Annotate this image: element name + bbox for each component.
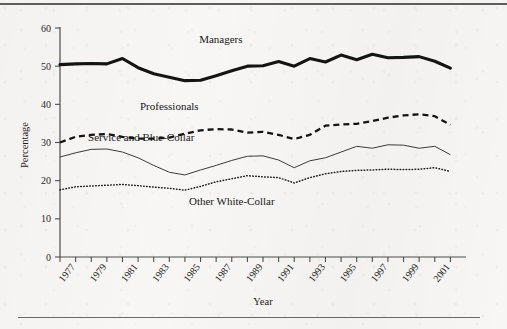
x-tick-label: 1977 <box>56 261 77 284</box>
y-tick-label: 30 <box>41 137 51 148</box>
series-line-service-and-blue-collar <box>60 145 450 175</box>
x-tick-label: 1993 <box>306 261 327 284</box>
data-series <box>60 54 450 190</box>
y-tick-label: 20 <box>41 175 51 186</box>
x-tick-label: 1979 <box>87 261 108 284</box>
x-tick-label: 1999 <box>400 261 421 284</box>
y-tick-label: 60 <box>41 23 51 34</box>
x-axis-title: Year <box>253 296 273 307</box>
x-tick-label: 1989 <box>244 261 265 284</box>
x-tick-label: 1997 <box>369 261 390 284</box>
series-label-professionals: Professionals <box>140 100 199 112</box>
line-chart-figure: 0102030405060 19771979198119831985198719… <box>0 0 507 329</box>
y-axis-ticks: 0102030405060 <box>41 23 60 263</box>
series-label-managers: Managers <box>199 33 242 45</box>
x-tick-label: 1983 <box>150 261 171 284</box>
y-tick-label: 0 <box>46 252 51 263</box>
series-line-other-white-collar <box>60 168 450 191</box>
y-axis-title: Percentage <box>19 122 30 168</box>
y-tick-label: 40 <box>41 99 51 110</box>
x-tick-label: 1985 <box>181 261 202 284</box>
x-tick-label: 1987 <box>212 261 233 284</box>
x-tick-label: 1995 <box>337 261 358 284</box>
x-tick-label: 1991 <box>275 261 296 284</box>
x-axis-ticks: 1977197919811983198519871989199119931995… <box>56 257 452 284</box>
x-tick-label: 2001 <box>431 261 452 284</box>
y-tick-label: 50 <box>41 61 51 72</box>
series-line-managers <box>60 54 450 80</box>
series-label-service-and-blue-collar: Service and Blue-Collar <box>88 131 195 143</box>
series-label-other-white-collar: Other White-Collar <box>189 195 275 207</box>
y-tick-label: 10 <box>41 213 51 224</box>
chart-canvas: 0102030405060 19771979198119831985198719… <box>0 0 507 329</box>
x-tick-label: 1981 <box>119 261 140 284</box>
